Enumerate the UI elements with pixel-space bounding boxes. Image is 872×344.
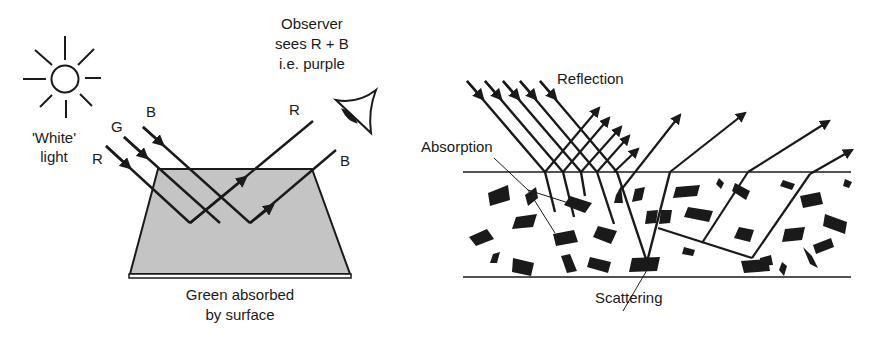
observer-label-line3: i.e. purple xyxy=(275,54,349,74)
reflected-rays-right xyxy=(545,108,852,258)
eye-icon xyxy=(336,90,376,133)
scattering-label: Scattering xyxy=(595,289,663,307)
surface-caption-line1: Green absorbed xyxy=(170,285,310,305)
ray-label-green-in: G xyxy=(111,118,123,136)
reflection-label: Reflection xyxy=(557,70,624,88)
ray-label-red-out: R xyxy=(289,101,300,119)
white-light-label-line1: 'White' xyxy=(32,128,76,147)
ray-label-blue-out: B xyxy=(340,152,350,170)
sun-icon xyxy=(23,36,101,118)
ray-label-blue-in: B xyxy=(146,103,156,121)
absorbing-surface xyxy=(129,169,351,278)
ray-label-red-in: R xyxy=(92,150,103,168)
observer-label-line2: sees R + B xyxy=(275,34,349,54)
surface-caption: Green absorbed by surface xyxy=(170,285,310,325)
observer-label-line1: Observer xyxy=(275,14,349,34)
light-interaction-diagram: 'White' light R G B R B Observer sees R … xyxy=(0,0,872,344)
observer-label: Observer sees R + B i.e. purple xyxy=(275,14,349,74)
diagram-graphics xyxy=(0,0,872,344)
surface-caption-line2: by surface xyxy=(170,305,310,325)
white-light-label-line2: light xyxy=(32,147,76,166)
absorption-label: Absorption xyxy=(421,138,493,156)
scattering-particles xyxy=(469,178,852,276)
white-light-label: 'White' light xyxy=(32,128,76,166)
